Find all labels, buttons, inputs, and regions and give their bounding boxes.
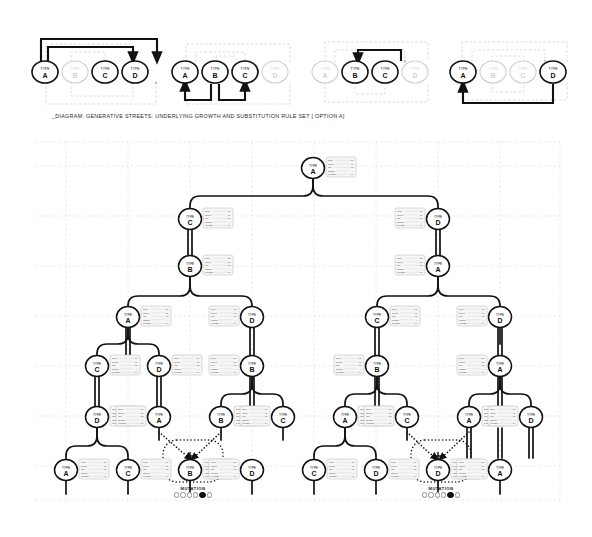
tree-node-a[interactable]: Run01Seed07Iter03OriginALength04TYPEA	[116, 406, 171, 428]
rule-node-3-D[interactable]: TYPE D	[402, 61, 428, 83]
rule-node-4-C[interactable]: TYPE C	[510, 61, 536, 83]
tree-node-c[interactable]: Run01Seed07Iter03OriginALength04TYPEC	[179, 208, 234, 230]
tree-node-a[interactable]: Run01Seed07Iter03OriginALength04TYPEA	[457, 355, 512, 377]
rule-node-1-A[interactable]: TYPE A	[32, 61, 58, 83]
rule-group-2[interactable]: TYPE A TYPE B TYPE C TYPE D	[172, 44, 290, 104]
node-type-caption: TYPE	[496, 313, 504, 317]
node-type-caption: TYPE	[186, 262, 194, 266]
tree-node-c[interactable]: Run01Seed07Iter03OriginALength04TYPEC	[86, 355, 141, 377]
rule-node-1-D[interactable]: TYPE D	[122, 61, 148, 83]
rule-node-2-B[interactable]: TYPE B	[202, 61, 228, 83]
tree-node-c[interactable]: Run01Seed07Iter03OriginALength04TYPEC	[117, 459, 172, 481]
node-info-chip: Run01Seed07Iter03OriginALength04	[79, 459, 109, 479]
node-type-caption: TYPE	[248, 362, 256, 366]
diagram-svg: TYPE A TYPE B TYPE C TYPE D	[0, 0, 592, 537]
rule-node-2-A[interactable]: TYPE A	[172, 61, 198, 83]
node-type-caption: TYPE	[248, 313, 256, 317]
node-type-letter: B	[249, 366, 254, 373]
node-type-letter: A	[466, 417, 471, 424]
tree-node-b[interactable]: Run01Seed07Iter03OriginALength04TYPEB	[179, 255, 234, 277]
node-type-letter: C	[311, 470, 316, 477]
rule-node-1-C[interactable]: TYPE C	[92, 61, 118, 83]
node-info-chip: Run01Seed07Iter03OriginALength04	[209, 306, 239, 326]
rule-group-1[interactable]: TYPE A TYPE B TYPE C TYPE D	[32, 39, 157, 104]
node-info-chip: Run01Seed07Iter03OriginALength04	[141, 306, 171, 326]
node-type-caption: TYPE	[434, 262, 442, 266]
tree-node-d[interactable]: Run01Seed07Iter03OriginALength04TYPED	[365, 459, 420, 481]
node-type-letter: A	[156, 417, 161, 424]
tree-node-c[interactable]: Run01Seed07Iter03OriginALength04TYPEC	[364, 406, 419, 428]
tree-node-d[interactable]: Run01Seed07Iter03OriginALength04TYPED	[457, 306, 512, 328]
svg-text:TYPE: TYPE	[489, 67, 499, 71]
svg-text:TYPE: TYPE	[131, 67, 141, 71]
node-type-caption: TYPE	[93, 413, 101, 417]
rule-group-4[interactable]: TYPE A TYPE B TYPE C TYPE D	[450, 42, 567, 103]
chip-key: Length	[328, 173, 336, 176]
chip-key: Length	[459, 322, 467, 325]
chip-key: Length	[174, 371, 182, 374]
rule-node-4-B[interactable]: TYPE B	[480, 61, 506, 83]
node-info-chip: Run01Seed07Iter03OriginALength04	[326, 157, 356, 177]
tree-node-a[interactable]: Run01Seed07Iter03OriginALength04TYPEA	[55, 459, 110, 481]
node-type-letter: C	[125, 470, 130, 477]
rule-node-4-D[interactable]: TYPE D	[540, 61, 566, 83]
node-info-chip: Run01Seed07Iter03OriginALength04	[141, 459, 171, 479]
node-type-letter: A	[125, 317, 130, 324]
mutation-right: MUTATION	[406, 486, 476, 498]
tree-node-a[interactable]: Run01Seed07Iter03OriginALength04TYPEA	[117, 306, 172, 328]
tree-node-c[interactable]: Run01Seed07Iter03OriginALength04TYPEC	[303, 459, 358, 481]
tree-node-a[interactable]: Run01Seed07Iter03OriginALength04TYPEA	[395, 255, 450, 277]
chip-key: Length	[143, 322, 151, 325]
mutation-left-label: MUTATION	[158, 486, 228, 491]
svg-text:TYPE: TYPE	[271, 67, 281, 71]
mutation-left-steps[interactable]	[158, 492, 228, 498]
rule-node-3-C[interactable]: TYPE C	[372, 61, 398, 83]
rule-group-3[interactable]: TYPE A TYPE B TYPE C TYPE D	[312, 42, 428, 102]
tree-node-d[interactable]: Run01Seed07Iter03OriginALength04TYPED	[209, 306, 264, 328]
node-info-chip: Run01Seed07Iter03OriginALength04	[488, 406, 518, 426]
chip-key: Length	[391, 475, 399, 478]
svg-text:B: B	[212, 72, 217, 79]
svg-text:D: D	[550, 72, 555, 79]
rule-node-2-C[interactable]: TYPE C	[232, 61, 258, 83]
tree-edges	[66, 179, 533, 494]
node-type-letter: D	[249, 470, 254, 477]
svg-text:B: B	[352, 72, 357, 79]
tree-node-c[interactable]: Run01Seed07Iter03OriginALength04TYPEC	[240, 406, 295, 428]
node-type-letter: B	[218, 417, 223, 424]
svg-text:A: A	[42, 72, 47, 79]
rule-node-2-D[interactable]: TYPE D	[262, 61, 288, 83]
svg-text:C: C	[102, 72, 107, 79]
tree-node-d[interactable]: Run01Seed07Iter03OriginALength04TYPED	[488, 406, 543, 428]
tree-node-a[interactable]: Run01Seed07Iter03OriginALength04TYPEA	[302, 157, 357, 179]
svg-text:D: D	[272, 72, 277, 79]
node-info-chip: Run01Seed07Iter03OriginALength04	[390, 306, 420, 326]
node-type-caption: TYPE	[434, 215, 442, 219]
tree-node-b[interactable]: Run01Seed07Iter03OriginALength04TYPEB	[209, 355, 264, 377]
node-type-letter: D	[249, 317, 254, 324]
tree-node-b[interactable]: Run01Seed07Iter03OriginALength04TYPEB	[334, 355, 389, 377]
node-type-caption: TYPE	[217, 413, 225, 417]
rule-set: TYPE A TYPE B TYPE C TYPE D	[32, 39, 567, 104]
tree-node-a[interactable]: Run01Seed07Iter03OriginALength04TYPEA	[457, 459, 512, 481]
node-info-chip: Run01Seed07Iter03OriginALength04	[110, 355, 140, 375]
chip-key: Length	[143, 475, 151, 478]
chip-key: Length	[81, 475, 89, 478]
rule-node-3-B[interactable]: TYPE B	[342, 61, 368, 83]
node-info-chip: Run01Seed07Iter03OriginALength04	[203, 208, 233, 228]
node-type-caption: TYPE	[465, 413, 473, 417]
tree-node-c[interactable]: Run01Seed07Iter03OriginALength04TYPEC	[366, 306, 421, 328]
rule-node-1-B[interactable]: TYPE B	[62, 61, 88, 83]
rule-node-3-A[interactable]: TYPE A	[312, 61, 338, 83]
rule-node-4-A[interactable]: TYPE A	[450, 61, 476, 83]
mutation-right-steps[interactable]	[406, 492, 476, 498]
node-type-letter: A	[310, 168, 315, 175]
node-info-chip: Run01Seed07Iter03OriginALength04	[209, 355, 239, 375]
node-type-caption: TYPE	[372, 466, 380, 470]
tree-node-d[interactable]: Run01Seed07Iter03OriginALength04TYPED	[148, 355, 203, 377]
chip-key: Length	[112, 371, 120, 374]
tree-node-d[interactable]: Run01Seed07Iter03OriginALength04TYPED	[209, 459, 264, 481]
svg-text:TYPE: TYPE	[181, 67, 191, 71]
mutation-left: MUTATION	[158, 486, 228, 498]
tree-node-d[interactable]: Run01Seed07Iter03OriginALength04TYPED	[395, 208, 450, 230]
